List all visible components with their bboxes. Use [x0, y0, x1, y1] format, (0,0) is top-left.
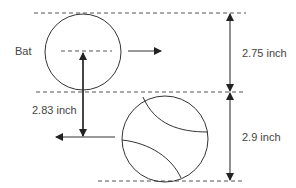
- vertical-gap-label: 2.83 inch: [32, 104, 77, 116]
- ball-seam-top: [143, 97, 208, 132]
- bottom-distance-label: 2.9 inch: [242, 131, 281, 143]
- bat-label: Bat: [15, 45, 32, 57]
- top-distance-label: 2.75 inch: [242, 47, 287, 59]
- diagram-canvas: [0, 0, 296, 188]
- ball-circle: [122, 96, 208, 182]
- ball-seam-bottom: [122, 140, 181, 178]
